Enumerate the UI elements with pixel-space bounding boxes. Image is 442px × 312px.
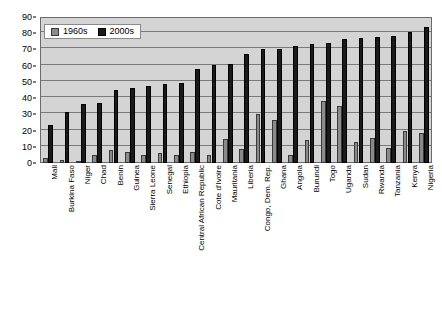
bar xyxy=(92,155,97,163)
bar xyxy=(76,161,81,163)
x-axis: MaliBurkina FasoNigerChadBeninGuineaSier… xyxy=(40,165,432,305)
x-tick-label: Burundi xyxy=(313,165,321,193)
bar-group xyxy=(350,17,366,163)
x-tick-label: Tanzania xyxy=(394,165,402,197)
bar xyxy=(288,155,293,163)
x-tick-label: Togo xyxy=(329,165,337,182)
bar xyxy=(81,104,86,163)
bar xyxy=(403,131,408,163)
y-tick-mark-80 xyxy=(33,33,36,34)
bar-group xyxy=(367,17,383,163)
x-tick-label: Cote d'Ivoire xyxy=(215,165,223,210)
x-tick-label: Congo, Dem. Rep. xyxy=(264,165,272,231)
x-tick-label: Kenya xyxy=(411,165,419,188)
bar xyxy=(386,148,391,163)
legend-label: 2000s xyxy=(110,27,135,36)
bar xyxy=(277,49,282,163)
legend-label: 1960s xyxy=(63,27,88,36)
bar xyxy=(256,114,261,163)
bar xyxy=(163,84,168,163)
y-tick-mark-20 xyxy=(33,130,36,131)
bar-group xyxy=(154,17,170,163)
bar xyxy=(60,160,65,163)
bar xyxy=(146,86,151,163)
y-tick-mark-50 xyxy=(33,81,36,82)
bar xyxy=(244,54,249,164)
bar xyxy=(370,138,375,163)
bar xyxy=(212,65,217,163)
bar-chart: 0102030405060708090 MaliBurkina FasoNige… xyxy=(0,0,442,312)
y-tick-mark-40 xyxy=(33,98,36,99)
bar xyxy=(97,103,102,163)
legend-entry: 2000s xyxy=(98,27,135,36)
y-tick-mark-0 xyxy=(33,163,36,164)
y-tick-label-40: 40 xyxy=(22,94,32,103)
x-tick-label: Ethiopia xyxy=(182,165,190,194)
y-tick-label-50: 50 xyxy=(22,77,32,86)
x-tick-label: Mauritania xyxy=(231,165,239,202)
bar-group xyxy=(285,17,301,163)
bar-group xyxy=(334,17,350,163)
bar xyxy=(359,38,364,163)
x-tick-label: Mali xyxy=(51,165,59,180)
bar xyxy=(109,150,114,163)
bar xyxy=(391,36,396,163)
bar xyxy=(337,106,342,163)
bar xyxy=(130,88,135,163)
bar xyxy=(125,152,130,163)
x-tick-label: Angola xyxy=(296,165,304,190)
bar xyxy=(114,90,119,163)
bar xyxy=(354,142,359,163)
bar xyxy=(65,112,70,163)
x-tick-label: Benin xyxy=(117,165,125,185)
bar xyxy=(190,152,195,163)
x-tick-label: Chad xyxy=(100,165,108,184)
y-tick-mark-60 xyxy=(33,65,36,66)
legend-entry: 1960s xyxy=(51,27,88,36)
bar xyxy=(408,32,413,163)
x-tick-label: Niger xyxy=(84,165,92,184)
x-tick-label: Sudan xyxy=(362,165,370,188)
bar xyxy=(261,49,266,163)
bar-group xyxy=(252,17,268,163)
y-tick-label-70: 70 xyxy=(22,45,32,54)
y-tick-label-30: 30 xyxy=(22,110,32,119)
bar-group xyxy=(383,17,399,163)
y-tick-mark-70 xyxy=(33,49,36,50)
x-tick-label: Senegal xyxy=(166,165,174,194)
bar-group xyxy=(269,17,285,163)
bar xyxy=(158,153,163,163)
y-tick-label-20: 20 xyxy=(22,126,32,135)
x-tick-label: Ghana xyxy=(280,165,288,189)
bar xyxy=(305,140,310,163)
bar xyxy=(207,155,212,163)
bar xyxy=(310,44,315,163)
bar xyxy=(424,27,429,163)
y-axis: 0102030405060708090 xyxy=(0,17,36,163)
y-tick-label-10: 10 xyxy=(22,142,32,151)
bar xyxy=(43,158,48,163)
bar-group xyxy=(301,17,317,163)
y-tick-mark-30 xyxy=(33,114,36,115)
bar xyxy=(321,101,326,163)
bar xyxy=(141,155,146,163)
bar xyxy=(326,43,331,163)
x-tick-label: Guinea xyxy=(133,165,141,191)
legend-swatch-icon xyxy=(51,28,59,36)
bar xyxy=(195,69,200,163)
bar-group xyxy=(399,17,415,163)
x-tick-label: Burkina Faso xyxy=(68,165,76,212)
bar xyxy=(174,155,179,163)
bar xyxy=(419,133,424,163)
bar-group xyxy=(318,17,334,163)
y-tick-label-80: 80 xyxy=(22,29,32,38)
bar-group xyxy=(187,17,203,163)
bar-group xyxy=(416,17,432,163)
x-tick-label: Uganda xyxy=(345,165,353,193)
bar-group xyxy=(171,17,187,163)
bar xyxy=(223,139,228,163)
x-tick-label: Sierra Leone xyxy=(149,165,157,211)
y-tick-label-90: 90 xyxy=(22,13,32,22)
bar xyxy=(375,37,380,163)
bar-group xyxy=(220,17,236,163)
